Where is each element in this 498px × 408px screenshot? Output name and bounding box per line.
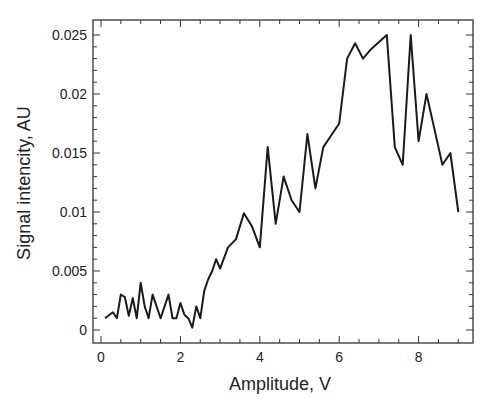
chart-canvas: 02468 00.0050.010.0150.020.025 Amplitude… — [0, 0, 498, 408]
y-tick-label: 0.025 — [52, 27, 87, 43]
y-tick-label: 0.02 — [60, 86, 87, 102]
y-axis-label: Signal intencity, AU — [14, 106, 34, 260]
y-tick-label: 0.01 — [60, 204, 87, 220]
x-tick-label: 0 — [97, 349, 105, 365]
y-tick-label: 0.005 — [52, 263, 87, 279]
x-axis-label: Amplitude, V — [229, 374, 331, 394]
x-tick-label: 6 — [335, 349, 343, 365]
x-tick-label: 4 — [256, 349, 264, 365]
x-tick-label: 8 — [415, 349, 423, 365]
y-tick-label: 0.015 — [52, 145, 87, 161]
y-tick-label: 0 — [79, 322, 87, 338]
x-tick-label: 2 — [177, 349, 185, 365]
